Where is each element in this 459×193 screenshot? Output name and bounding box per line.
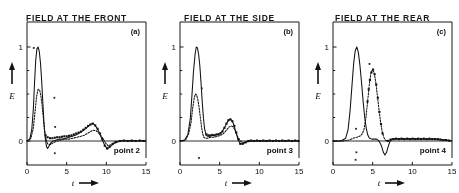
data-marker bbox=[272, 140, 274, 142]
data-marker bbox=[380, 123, 382, 125]
x-tick-label: 10 bbox=[255, 167, 264, 176]
data-marker bbox=[239, 143, 241, 145]
data-marker bbox=[414, 138, 416, 140]
panel-corner-label: (c) bbox=[437, 27, 447, 36]
data-marker bbox=[61, 136, 63, 138]
data-marker bbox=[97, 128, 99, 130]
data-marker bbox=[428, 138, 430, 140]
point-annotation: point 2 bbox=[114, 146, 141, 155]
x-tick-label: 0 bbox=[331, 167, 336, 176]
data-marker bbox=[123, 139, 125, 141]
y-tick-label: 0 bbox=[19, 137, 24, 146]
data-marker bbox=[233, 125, 235, 127]
data-marker bbox=[215, 133, 217, 135]
scan-speckle bbox=[33, 47, 35, 49]
data-marker bbox=[250, 139, 252, 141]
data-marker bbox=[104, 145, 106, 147]
data-marker bbox=[378, 111, 380, 113]
x-tick-label: 5 bbox=[370, 167, 375, 176]
data-marker bbox=[420, 138, 422, 140]
data-marker bbox=[382, 132, 384, 134]
chart-panel-3: FIELD AT THE REAR05101501Et(c)point 4 bbox=[306, 0, 459, 193]
data-marker bbox=[434, 138, 436, 140]
data-marker bbox=[56, 136, 58, 138]
x-tick-label: 15 bbox=[448, 167, 457, 176]
data-marker bbox=[237, 138, 239, 140]
x-tick-label: 0 bbox=[25, 167, 30, 176]
data-marker bbox=[131, 139, 133, 141]
plot-canvas: 05101501Et(b)point 3 bbox=[153, 0, 306, 193]
data-marker bbox=[369, 79, 371, 81]
y-tick-label: 0 bbox=[325, 137, 330, 146]
data-marker bbox=[269, 139, 271, 141]
data-series-dotted-curve bbox=[180, 94, 299, 143]
data-marker bbox=[395, 138, 397, 140]
data-marker bbox=[51, 137, 53, 139]
data-series-solid-curve bbox=[27, 47, 146, 149]
data-marker bbox=[78, 131, 80, 133]
data-marker bbox=[115, 141, 117, 143]
data-marker bbox=[275, 139, 277, 141]
scan-speckle bbox=[201, 87, 203, 89]
data-marker bbox=[68, 135, 70, 137]
scan-speckle bbox=[355, 128, 357, 130]
data-marker bbox=[209, 134, 211, 136]
x-tick-label: 5 bbox=[217, 167, 222, 176]
data-marker bbox=[206, 133, 208, 135]
data-marker bbox=[389, 139, 391, 141]
point-annotation: point 3 bbox=[267, 146, 294, 155]
data-marker bbox=[54, 137, 56, 139]
data-marker bbox=[377, 97, 379, 99]
data-marker bbox=[89, 124, 91, 126]
data-marker bbox=[143, 140, 145, 142]
data-marker bbox=[225, 123, 227, 125]
data-marker bbox=[119, 140, 121, 142]
y-tick-label: 1 bbox=[172, 43, 177, 52]
data-marker bbox=[217, 133, 219, 135]
data-marker bbox=[417, 138, 419, 140]
y-axis-label: E bbox=[8, 91, 15, 101]
data-marker bbox=[387, 140, 389, 142]
data-marker bbox=[297, 140, 299, 142]
data-marker bbox=[375, 84, 377, 86]
data-marker bbox=[403, 138, 405, 140]
data-marker bbox=[247, 140, 249, 142]
t-axis-arrow-icon bbox=[79, 180, 99, 186]
scan-speckle bbox=[54, 152, 56, 154]
y-tick-label: 1 bbox=[19, 43, 24, 52]
data-marker bbox=[127, 140, 129, 142]
data-marker bbox=[106, 147, 108, 149]
data-marker bbox=[82, 129, 84, 131]
scan-speckle bbox=[53, 97, 55, 99]
data-marker bbox=[426, 138, 428, 140]
y-axis-label: E bbox=[314, 91, 321, 101]
data-marker bbox=[448, 139, 450, 141]
data-marker bbox=[73, 133, 75, 135]
data-marker bbox=[80, 131, 82, 133]
plot-canvas: 05101501Et(c)point 4 bbox=[306, 0, 459, 193]
e-axis-arrow-icon bbox=[315, 62, 321, 84]
data-marker bbox=[284, 140, 286, 142]
data-marker bbox=[445, 139, 447, 141]
figure-three-panel-field-plots: FIELD AT THE FRONT05101501Et(a)point 2FI… bbox=[0, 0, 459, 193]
panel-corner-label: (a) bbox=[131, 27, 141, 36]
data-marker bbox=[227, 119, 229, 121]
x-tick-label: 15 bbox=[295, 167, 304, 176]
data-marker bbox=[242, 143, 244, 145]
data-marker bbox=[372, 69, 374, 71]
y-tick-label: 0 bbox=[172, 137, 177, 146]
data-marker bbox=[291, 140, 293, 142]
data-marker bbox=[412, 138, 414, 140]
data-marker bbox=[219, 132, 221, 134]
plot-canvas: 05101501Et(a)point 2 bbox=[0, 0, 153, 193]
scan-speckle bbox=[355, 159, 357, 161]
data-marker bbox=[294, 139, 296, 141]
data-marker bbox=[101, 138, 103, 140]
data-marker bbox=[401, 138, 403, 140]
x-axis-label: t bbox=[72, 178, 75, 188]
data-marker bbox=[75, 132, 77, 134]
data-marker bbox=[99, 132, 101, 134]
data-marker bbox=[262, 139, 264, 141]
x-tick-label: 5 bbox=[64, 167, 69, 176]
x-axis-label: t bbox=[225, 178, 228, 188]
